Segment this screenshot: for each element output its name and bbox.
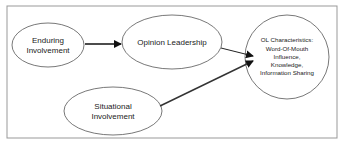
node-enduring-line-2: Involvement bbox=[26, 46, 70, 55]
node-enduring-line-1: Enduring bbox=[32, 36, 64, 45]
node-ol-line-5: Information Sharing bbox=[260, 69, 315, 76]
node-enduring-involvement: Enduring Involvement bbox=[12, 23, 84, 67]
node-opinion-line-1: Opinion Leadership bbox=[137, 38, 207, 47]
node-situational-line-1: Situational bbox=[94, 102, 132, 111]
node-ol-line-2: Word-Of-Mouth bbox=[266, 45, 309, 52]
node-situational-line-2: Involvement bbox=[91, 112, 135, 121]
node-opinion-leadership: Opinion Leadership bbox=[122, 15, 222, 69]
node-ol-characteristics: OL Characteristics: Word-Of-Mouth Influe… bbox=[245, 15, 329, 99]
node-ol-line-1: OL Characteristics: bbox=[261, 36, 314, 43]
diagram-canvas: Enduring Involvement Opinion Leadership … bbox=[0, 0, 345, 154]
node-ol-line-4: Knowledge, bbox=[271, 61, 304, 68]
node-situational-involvement: Situational Involvement bbox=[64, 87, 162, 135]
node-ol-line-3: Influence, bbox=[274, 53, 301, 60]
